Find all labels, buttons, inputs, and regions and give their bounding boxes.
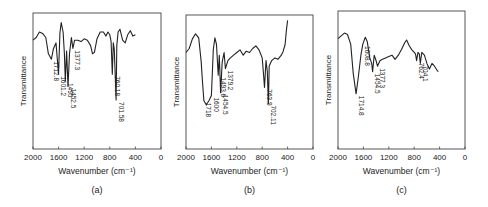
x-axis-title: Wavenumber (cm⁻¹): [211, 166, 289, 176]
peak-label: 1379.2: [227, 71, 234, 91]
y-axis-title: Transmittance: [19, 55, 28, 106]
peak-label: 1601.2: [60, 76, 67, 96]
x-tick-label: 1200: [228, 153, 246, 162]
x-tick-label: 800: [256, 153, 270, 162]
peak-label: 1600: [213, 97, 220, 112]
x-tick-label: 2000: [24, 153, 42, 162]
plot-frame-b: [186, 15, 313, 149]
plot-frame-a: [33, 13, 161, 149]
x-tick-label: 400: [281, 153, 295, 162]
x-tick-label: 400: [129, 153, 143, 162]
y-axis-title: Transmittance: [324, 54, 333, 105]
panel-label-a: (a): [92, 185, 103, 195]
x-tick-label: 2000: [329, 153, 347, 162]
x-axis-title: Wavenumber (cm⁻¹): [363, 166, 441, 176]
peak-label: 1454.5: [222, 95, 229, 115]
y-axis-title: Transmittance: [172, 56, 181, 107]
x-tick-label: 1600: [355, 153, 373, 162]
plot-frame-c: [338, 11, 465, 149]
x-tick-label: 800: [408, 153, 422, 162]
x-tick-label: 1600: [50, 153, 68, 162]
ftir-figure: 2000160012008004000Wavenumber (cm⁻¹)Tran…: [0, 0, 488, 207]
x-tick-label: 800: [103, 153, 117, 162]
x-tick-label: 1600: [203, 153, 221, 162]
x-tick-label: 1200: [75, 153, 93, 162]
panel-label-c: (c): [396, 185, 407, 195]
peak-label: 1452.5: [70, 88, 77, 108]
peak-label: 1377.3: [74, 50, 81, 70]
peak-label: 1377.3: [379, 68, 386, 88]
x-tick-label: 0: [463, 153, 468, 162]
x-tick-label: 0: [159, 153, 164, 162]
peak-label: 760.18: [114, 76, 121, 96]
peak-label: 1712.8: [53, 61, 60, 81]
peak-label: 763.9: [266, 89, 273, 106]
peak-label: 1718: [205, 103, 212, 118]
x-tick-label: 400: [433, 153, 447, 162]
peak-label: 1714.8: [358, 96, 365, 116]
x-axis-title: Wavenumber (cm⁻¹): [58, 166, 136, 176]
peak-label: 701.58: [118, 102, 125, 122]
peak-label: 704.1: [422, 65, 429, 82]
peak-label: 1608.8: [364, 46, 371, 66]
x-tick-label: 1200: [380, 153, 398, 162]
peak-label: 702.11: [270, 105, 277, 125]
panel-label-b: (b): [244, 185, 255, 195]
x-tick-label: 2000: [177, 153, 195, 162]
x-tick-label: 0: [311, 153, 316, 162]
